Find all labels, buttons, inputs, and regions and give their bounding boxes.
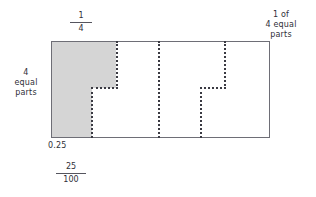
- top-fraction-denominator: 4: [70, 24, 92, 34]
- label-topright-line3: parts: [248, 30, 314, 40]
- bottom-fraction-bar: [56, 173, 86, 174]
- dotted-line-left-vertical-lower: [91, 87, 93, 138]
- dotted-line-center-divider: [158, 41, 160, 138]
- label-left-line3: parts: [2, 88, 50, 98]
- dotted-line-left-horizontal-jog: [91, 87, 118, 89]
- shaded-region-upper-block: [52, 42, 116, 88]
- label-left-line1: 4: [2, 68, 50, 78]
- shaded-region-lower-block: [52, 88, 92, 137]
- bottom-fraction-25-100: 25 100: [56, 162, 86, 185]
- bottom-fraction-denominator: 100: [56, 175, 86, 185]
- label-decimal-value: 0.25: [48, 141, 92, 151]
- top-fraction-numerator: 1: [70, 11, 92, 21]
- dotted-line-left-vertical-upper: [116, 41, 118, 89]
- dotted-line-right-vertical-lower: [200, 87, 202, 138]
- top-fraction-one-quarter: 1 4: [70, 11, 92, 34]
- dotted-line-right-vertical-upper: [224, 41, 226, 89]
- fraction-diagram: 1 4 1 of 4 equal parts 4 equal parts 0.2…: [0, 0, 316, 197]
- top-fraction-bar: [70, 22, 92, 23]
- label-four-equal-parts: 4 equal parts: [2, 68, 50, 98]
- dotted-line-right-horizontal-jog: [200, 87, 226, 89]
- bottom-fraction-numerator: 25: [56, 162, 86, 172]
- label-left-line2: equal: [2, 78, 50, 88]
- label-one-of-four-equal-parts: 1 of 4 equal parts: [248, 10, 314, 40]
- label-topright-line2: 4 equal: [248, 20, 314, 30]
- label-topright-line1: 1 of: [248, 10, 314, 20]
